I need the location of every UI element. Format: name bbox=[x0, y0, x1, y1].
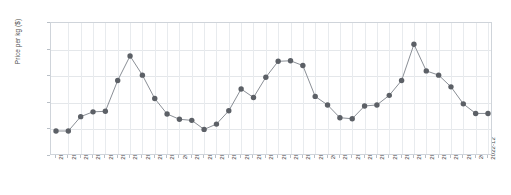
data-point bbox=[53, 128, 58, 133]
data-point bbox=[127, 53, 132, 58]
data-point bbox=[485, 111, 490, 116]
data-point bbox=[387, 93, 392, 98]
data-point bbox=[152, 96, 157, 101]
data-point bbox=[251, 95, 256, 100]
data-point bbox=[473, 111, 478, 116]
series-line bbox=[56, 44, 488, 131]
data-point bbox=[103, 109, 108, 114]
y-tick-mark bbox=[47, 155, 50, 156]
data-point bbox=[288, 58, 293, 63]
data-point bbox=[461, 101, 466, 106]
data-point bbox=[115, 78, 120, 83]
data-point bbox=[350, 116, 355, 121]
data-point bbox=[66, 128, 71, 133]
data-point bbox=[90, 109, 95, 114]
plot-area bbox=[50, 22, 492, 155]
data-point bbox=[214, 121, 219, 126]
data-point bbox=[325, 102, 330, 107]
data-point bbox=[300, 63, 305, 68]
data-point bbox=[189, 118, 194, 123]
data-point bbox=[177, 117, 182, 122]
data-point bbox=[226, 108, 231, 113]
series-layer bbox=[51, 23, 493, 156]
data-point bbox=[411, 42, 416, 47]
data-point bbox=[362, 103, 367, 108]
data-point bbox=[374, 102, 379, 107]
line-chart: Price per kg ($) 0510152025 2020-012020-… bbox=[0, 0, 511, 195]
data-point bbox=[424, 68, 429, 73]
data-point bbox=[201, 127, 206, 132]
data-point bbox=[78, 114, 83, 119]
y-axis-label: Price per kg ($) bbox=[14, 0, 21, 97]
data-point bbox=[448, 84, 453, 89]
data-point bbox=[238, 86, 243, 91]
data-point bbox=[140, 72, 145, 77]
data-point bbox=[313, 94, 318, 99]
data-point bbox=[337, 115, 342, 120]
data-point bbox=[399, 78, 404, 83]
data-point bbox=[263, 75, 268, 80]
data-point bbox=[164, 111, 169, 116]
data-point bbox=[436, 72, 441, 77]
data-point bbox=[275, 59, 280, 64]
